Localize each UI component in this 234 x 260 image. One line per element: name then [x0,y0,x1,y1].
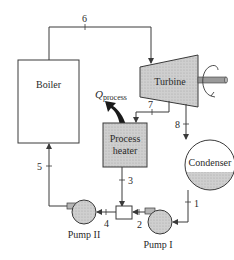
boiler [18,60,79,143]
stream-3 [119,167,125,206]
state-label-7: 7 [148,99,153,110]
pump-2-label: Pump II [68,229,101,240]
state-label-6: 6 [82,13,87,24]
stream-1 [173,190,191,222]
stream-8 [183,104,189,139]
state-label-3: 3 [128,175,133,186]
state-label-4: 4 [104,218,109,229]
stream-2 [133,209,145,215]
condenser-label: Condenser [189,157,232,168]
cogeneration-diagram: 6 Boiler Turbine 7 8 Qprocess Process he… [0,0,234,260]
pump-1 [145,208,172,234]
process-heater-label-2: heater [113,145,138,156]
pump-2 [67,200,96,224]
q-process-label: Qprocess [95,88,127,102]
process-heater-label-1: Process [110,133,141,144]
mixing-chamber [116,206,132,219]
boiler-label: Boiler [36,79,62,90]
stream-6 [49,24,151,63]
state-label-8: 8 [175,119,180,130]
stream-5 [46,144,67,206]
stream-4 [97,209,116,215]
state-label-5: 5 [37,161,42,172]
state-label-1: 1 [194,198,199,209]
pump-1-label: Pump I [143,239,172,250]
turbine-label: Turbine [154,76,186,87]
state-label-2: 2 [137,219,142,230]
turbine-shaft-icon [198,65,228,97]
heat-out-arrow-icon [105,101,126,125]
